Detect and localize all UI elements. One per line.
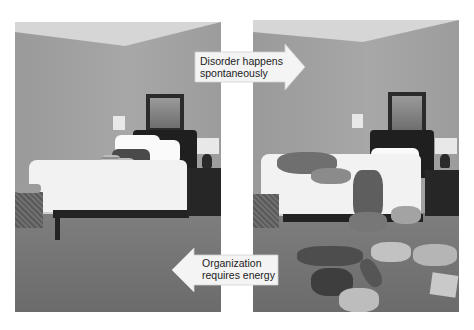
nightstand [187, 168, 221, 216]
callout-organization: Organization requires energy [170, 247, 280, 293]
floor-clothes [391, 206, 421, 224]
callout-line: spontaneously [200, 67, 283, 79]
wicker-basket [15, 192, 43, 228]
callout-text: Disorder happens spontaneously [200, 55, 283, 79]
floor-clothes [349, 212, 387, 232]
floor-clothes [371, 242, 411, 262]
framed-picture [146, 94, 184, 132]
floor-clothes [297, 246, 363, 266]
ceiling [15, 22, 221, 62]
magazine [430, 272, 459, 297]
callout-line: requires energy [202, 269, 275, 281]
callout-text: Organization requires energy [202, 257, 275, 281]
clothes-pile [311, 168, 351, 184]
table-lamp-shade [435, 138, 457, 154]
wicker-basket [253, 194, 279, 228]
nightstand [425, 170, 459, 216]
callout-line: Organization [202, 257, 275, 269]
wall-lamp [113, 116, 125, 130]
floor-clothes [413, 244, 457, 266]
folded-blanket [15, 184, 41, 193]
table-lamp-base [202, 154, 212, 168]
floor-clothes [339, 288, 379, 312]
callout-line: Disorder happens [200, 55, 283, 67]
wall-lamp [352, 114, 363, 128]
table-lamp-shade [197, 138, 219, 154]
table-lamp-base [440, 154, 450, 168]
made-bed [29, 160, 187, 212]
bed-leg [55, 214, 60, 240]
callout-disorder: Disorder happens spontaneously [193, 43, 307, 91]
framed-picture [388, 92, 426, 134]
bed-frame [53, 210, 189, 218]
